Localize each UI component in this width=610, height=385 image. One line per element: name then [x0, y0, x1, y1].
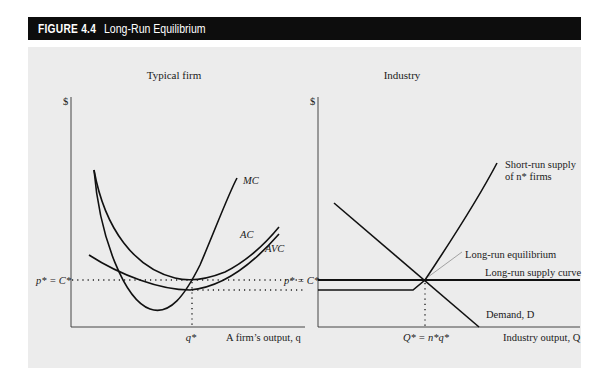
avc-label: AVC: [264, 243, 285, 254]
typical-firm-chart: Typical firm $ MC AC AVC p* = C* q* A fi…: [35, 69, 305, 343]
right-x-axis-label: Industry output, Q: [503, 332, 581, 343]
ac-label: AC: [239, 229, 254, 240]
demand-curve: [334, 203, 479, 327]
right-chart-title: Industry: [384, 69, 421, 81]
ac-curve: [94, 170, 279, 280]
charts-svg: Typical firm $ MC AC AVC p* = C* q* A fi…: [0, 0, 610, 385]
Q-star-label: Q* = n*q*: [403, 332, 450, 343]
right-price-label: p* = C*: [283, 275, 320, 286]
lr-equilibrium-leader-line: [428, 252, 462, 277]
left-price-label: p* = C*: [35, 275, 72, 286]
q-star-label: q*: [186, 332, 197, 343]
avc-curve: [89, 234, 279, 290]
demand-label: Demand, D: [486, 309, 535, 320]
mc-curve: [94, 170, 237, 310]
left-chart-title: Typical firm: [147, 69, 202, 81]
sr-supply-label-line1: Short-run supply: [505, 159, 577, 170]
mc-label: MC: [242, 175, 260, 186]
lr-supply-label: Long-run supply curve: [485, 267, 582, 278]
left-y-axis-label: $: [63, 96, 68, 107]
right-y-axis-label: $: [310, 96, 315, 107]
short-run-supply-curve: [318, 163, 497, 290]
left-x-axis-label: A firm’s output, q: [226, 332, 301, 343]
sr-supply-label-line2: of n* firms: [505, 171, 552, 182]
lr-equilibrium-label: Long-run equilibrium: [465, 249, 556, 260]
industry-chart: Industry $ p* = C* Short-run supply of n…: [283, 69, 582, 343]
